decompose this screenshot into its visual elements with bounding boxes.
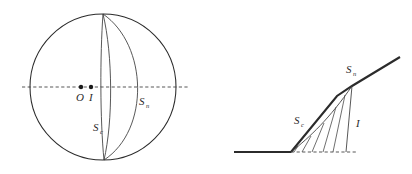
label-sphere-sn-subscript: n — [146, 102, 149, 109]
label-slope-sc-subscript: c — [301, 121, 304, 128]
label-slope-interior-I: I — [355, 117, 361, 129]
label-slope-sc: S — [294, 114, 300, 126]
slip-line-sn — [346, 86, 352, 152]
interior-point-dot — [89, 85, 93, 89]
label-slope-sn-subscript: n — [353, 70, 356, 77]
label-slope-sn: S — [346, 63, 352, 75]
center-point-dot — [79, 85, 83, 89]
label-sphere-sc-subscript: c — [100, 128, 103, 135]
sphere-diagram-svg: O I S c S n — [0, 0, 206, 174]
slope-panel: S c S n I — [206, 0, 412, 174]
label-sphere-sn: S — [139, 95, 145, 107]
label-sphere-sc: S — [93, 121, 99, 133]
label-center-O: O — [76, 91, 84, 103]
slope-diagram-svg: S c S n I — [206, 0, 412, 174]
figure-root: O I S c S n S — [0, 0, 412, 174]
sphere-panel: O I S c S n — [0, 0, 206, 174]
label-interior-I: I — [88, 91, 94, 103]
